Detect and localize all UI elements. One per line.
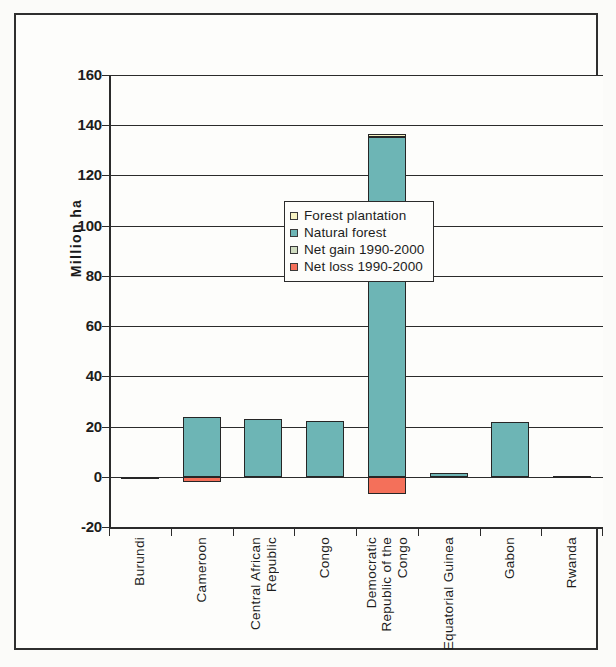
category-label-line: Burundi	[133, 537, 147, 586]
bar-slot	[553, 75, 591, 527]
legend-label: Natural forest	[304, 225, 386, 240]
bar-slot	[368, 75, 406, 527]
bar-slot	[244, 75, 282, 527]
y-axis-tick	[102, 376, 109, 377]
bar-segment-natural-forest	[244, 419, 282, 477]
bar-slot	[183, 75, 221, 527]
x-axis-tick	[171, 527, 172, 536]
category-label: Gabon	[480, 537, 542, 655]
category-label: Rwanda	[541, 537, 603, 655]
bar-segment-natural-forest	[553, 476, 591, 478]
legend-item: Net loss 1990-2000	[290, 258, 424, 275]
legend-item: Natural forest	[290, 224, 424, 241]
y-axis-tick	[102, 427, 109, 428]
x-axis-tick	[480, 527, 481, 536]
bar-segment-natural-forest	[430, 473, 468, 477]
chart-page: Million ha -20020406080100120140160 Fore…	[0, 0, 616, 667]
y-axis-tick-label: -20	[62, 518, 102, 535]
y-axis-tick	[102, 527, 109, 528]
y-axis-tick-label: 0	[62, 468, 102, 485]
legend-item: Forest plantation	[290, 207, 424, 224]
legend-swatch-icon	[290, 246, 298, 254]
y-axis-tick-label: 100	[62, 217, 102, 234]
x-axis-category-labels: BurundiCameroonCentral AfricanRepublicCo…	[109, 537, 603, 655]
category-label-line: Central African	[249, 537, 263, 630]
legend-label: Net gain 1990-2000	[304, 242, 424, 257]
category-label: Cameroon	[171, 537, 233, 655]
category-label: Central AfricanRepublic	[233, 537, 295, 655]
chart-frame: Million ha -20020406080100120140160 Fore…	[14, 13, 598, 650]
category-label-line: Cameroon	[195, 537, 209, 602]
legend-swatch-icon	[290, 263, 298, 271]
bar-segment-natural-forest	[183, 417, 221, 477]
bar-slot	[430, 75, 468, 527]
x-axis-tick	[418, 527, 419, 536]
y-axis-tick	[102, 276, 109, 277]
category-label-line: Congo	[396, 537, 410, 578]
x-axis-tick	[109, 527, 110, 536]
y-axis-tick-label: 60	[62, 317, 102, 334]
x-axis-ticks	[109, 527, 603, 537]
x-axis-tick	[356, 527, 357, 536]
y-axis-tick	[102, 75, 109, 76]
bar-segment-natural-forest	[121, 477, 159, 479]
y-axis-tick-label: 40	[62, 367, 102, 384]
bar-segment-natural-forest	[306, 421, 344, 476]
category-label-line: Democratic	[365, 537, 379, 608]
y-axis-tick	[102, 326, 109, 327]
bar-segment-forest-plantation	[368, 134, 406, 138]
y-axis-tick	[102, 226, 109, 227]
legend-label: Forest plantation	[304, 208, 406, 223]
category-label: DemocraticRepublic of theCongo	[356, 537, 418, 655]
y-axis-tick-label: 160	[62, 66, 102, 83]
bar-segment-natural-forest	[491, 422, 529, 477]
chart-legend: Forest plantationNatural forestNet gain …	[284, 201, 434, 282]
category-label-line: Republic of the	[380, 537, 394, 632]
category-label: Equatorial Guinea	[418, 537, 480, 655]
legend-swatch-icon	[290, 229, 298, 237]
bar-segment-net-loss	[183, 477, 221, 483]
legend-label: Net loss 1990-2000	[304, 259, 423, 274]
category-label-line: Rwanda	[565, 537, 579, 588]
y-axis-tick-label: 80	[62, 267, 102, 284]
category-label: Burundi	[109, 537, 171, 655]
category-label-line: Gabon	[504, 537, 518, 579]
bar-segment-net-loss	[368, 477, 406, 495]
bar-slot	[306, 75, 344, 527]
bar-group	[109, 75, 603, 527]
y-axis-tick-label: 140	[62, 116, 102, 133]
y-axis-tick	[102, 477, 109, 478]
y-axis-tick-label: 120	[62, 166, 102, 183]
plot-area: Forest plantationNatural forestNet gain …	[109, 75, 603, 527]
y-axis-tick	[102, 175, 109, 176]
bar-segment-natural-forest	[368, 137, 406, 477]
bar-slot	[121, 75, 159, 527]
x-axis-tick	[294, 527, 295, 536]
category-label-line: Republic	[264, 537, 278, 592]
category-label: Congo	[294, 537, 356, 655]
legend-swatch-icon	[290, 212, 298, 220]
y-axis-tick-labels: -20020406080100120140160	[56, 75, 102, 527]
category-label-line: Congo	[318, 537, 332, 578]
legend-item: Net gain 1990-2000	[290, 241, 424, 258]
y-axis-tick-label: 20	[62, 418, 102, 435]
bar-slot	[491, 75, 529, 527]
category-label-line: Equatorial Guinea	[442, 537, 456, 650]
x-axis-tick	[541, 527, 542, 536]
x-axis-tick	[602, 527, 603, 536]
y-axis-tick	[102, 125, 109, 126]
x-axis-tick	[233, 527, 234, 536]
